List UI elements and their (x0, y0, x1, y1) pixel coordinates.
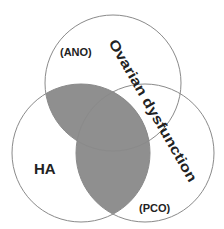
label-ha: HA (34, 160, 56, 177)
venn-diagram: (ANO) HA (PCO) Ovarian dysfunction (0, 0, 224, 229)
label-pco: (PCO) (139, 202, 171, 214)
label-ano: (ANO) (60, 46, 92, 58)
